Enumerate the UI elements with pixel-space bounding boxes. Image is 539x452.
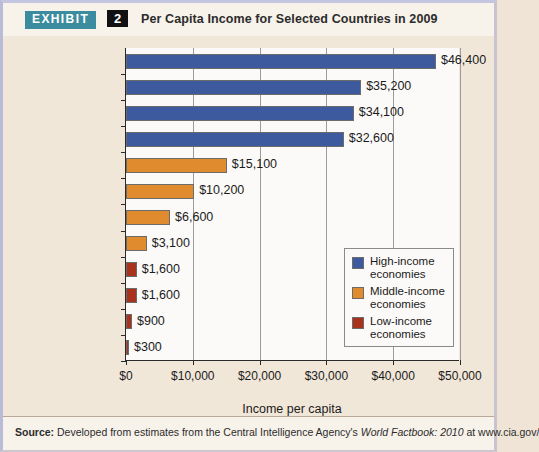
page-title: Per Capita Income for Selected Countries… (141, 12, 438, 26)
exhibit-header: EXHIBIT 2 Per Capita Income for Selected… (3, 3, 494, 37)
bar-value-label: $6,600 (175, 210, 213, 224)
bar (126, 80, 361, 95)
legend-label-high-income: High-income economies (370, 255, 435, 280)
exhibit-number-badge: 2 (107, 10, 128, 27)
bar-row: Japan$32,600 (126, 126, 460, 152)
x-axis-tick-label: $0 (119, 369, 132, 383)
bar-value-label: $1,600 (142, 262, 180, 276)
bar-value-label: $35,200 (366, 79, 411, 93)
x-axis-tick-label: $30,000 (305, 369, 348, 383)
source-text-part1: Developed from estimates from the Centra… (57, 426, 358, 438)
bar (126, 106, 354, 121)
bar-value-label: $46,400 (441, 53, 486, 67)
bar-value-label: $1,600 (142, 288, 180, 302)
x-axis-title: Income per capita (125, 402, 459, 416)
exhibit-footer: Source: Developed from estimates from th… (3, 416, 494, 450)
bar-value-label: $10,200 (199, 183, 244, 197)
legend-item-high-income: High-income economies (352, 255, 447, 280)
bar (126, 288, 137, 303)
bar (126, 314, 132, 329)
bar-row: Brazil$10,200 (126, 178, 460, 204)
legend-item-low-income: Low-income economies (352, 315, 447, 340)
bar-row: Germany$34,100 (126, 100, 460, 126)
source-text-part2: at www.cia.gov/ (466, 426, 539, 438)
bar-value-label: $32,600 (349, 131, 394, 145)
bar (126, 184, 194, 199)
chart-container: $0$10,000$20,000$30,000$40,000$50,000Uni… (3, 36, 494, 416)
x-axis-tick-label: $50,000 (438, 369, 481, 383)
gridline (460, 48, 461, 361)
bar (126, 54, 436, 69)
bar (126, 236, 147, 251)
legend-item-middle-income: Middle-income economies (352, 285, 447, 310)
legend-swatch-high-income (352, 257, 364, 269)
legend-label-middle-income: Middle-income economies (370, 285, 445, 310)
bar (126, 132, 344, 147)
bar (126, 262, 137, 277)
bar-row: China$6,600 (126, 205, 460, 231)
bar-row: Russia$15,100 (126, 152, 460, 178)
bar (126, 340, 129, 355)
chart-legend: High-income economies Middle-income econ… (344, 248, 454, 347)
bar-row: United Kingdom$35,200 (126, 74, 460, 100)
bar-row: United States$46,400 (126, 48, 460, 74)
bar-value-label: $15,100 (232, 157, 277, 171)
bar-value-label: $300 (134, 340, 162, 354)
x-axis-tick-label: $20,000 (238, 369, 281, 383)
bar-value-label: $34,100 (359, 105, 404, 119)
x-axis-tick-label: $10,000 (171, 369, 214, 383)
y-axis-tick (121, 361, 126, 362)
x-axis-tick-label: $40,000 (371, 369, 414, 383)
bar (126, 210, 170, 225)
bar-value-label: $900 (137, 314, 165, 328)
legend-swatch-middle-income (352, 287, 364, 299)
legend-swatch-low-income (352, 317, 364, 329)
source-note: Source: Developed from estimates from th… (15, 426, 486, 438)
exhibit-badge: EXHIBIT (25, 11, 96, 29)
bar (126, 158, 227, 173)
source-publication: World Factbook: 2010 (361, 426, 464, 438)
source-label: Source: (15, 426, 54, 438)
legend-label-low-income: Low-income economies (370, 315, 432, 340)
x-axis-tick (460, 360, 461, 365)
bar-value-label: $3,100 (152, 236, 190, 250)
